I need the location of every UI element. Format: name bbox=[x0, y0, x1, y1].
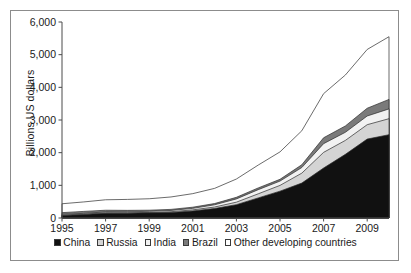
y-axis-ticks: 6,0005,0004,0003,0002,0001,0000 bbox=[30, 16, 62, 224]
y-tick-label: 5,000 bbox=[30, 48, 56, 60]
legend-label: Russia bbox=[106, 237, 137, 248]
x-axis-ticks: 19951997199920012003200520072009 bbox=[50, 218, 379, 234]
x-tick-label: 1995 bbox=[50, 222, 74, 234]
stacked-area-chart: 6,0005,0004,0003,0002,0001,0000 19951997… bbox=[0, 0, 411, 273]
x-tick-label: 2003 bbox=[225, 222, 249, 234]
legend-item[interactable]: India bbox=[145, 237, 176, 248]
legend-item[interactable]: Other developing countries bbox=[225, 237, 357, 248]
x-tick-label: 2005 bbox=[268, 222, 292, 234]
y-tick-label: 4,000 bbox=[30, 81, 56, 93]
legend-label: Brazil bbox=[192, 237, 218, 248]
y-tick-label: 1,000 bbox=[30, 179, 56, 191]
x-tick-label: 2001 bbox=[181, 222, 205, 234]
legend-label: India bbox=[154, 237, 176, 248]
legend-swatch-icon bbox=[145, 239, 152, 246]
legend-swatch-icon bbox=[97, 239, 104, 246]
chart-legend: ChinaRussiaIndiaBrazilOther developing c… bbox=[0, 237, 411, 248]
x-tick-label: 2009 bbox=[356, 222, 380, 234]
legend-item[interactable]: Russia bbox=[97, 237, 137, 248]
y-tick-label: 3,000 bbox=[30, 114, 56, 126]
y-tick-label: 2,000 bbox=[30, 146, 56, 158]
legend-item[interactable]: Brazil bbox=[183, 237, 218, 248]
x-tick-label: 2007 bbox=[312, 222, 336, 234]
x-tick-label: 1999 bbox=[138, 222, 162, 234]
legend-swatch-icon bbox=[225, 239, 232, 246]
series-bands bbox=[62, 37, 389, 218]
legend-swatch-icon bbox=[54, 239, 61, 246]
chart-plot-area: 6,0005,0004,0003,0002,0001,0000 19951997… bbox=[0, 0, 411, 273]
legend-item[interactable]: China bbox=[54, 237, 90, 248]
legend-label: Other developing countries bbox=[234, 237, 357, 248]
legend-label: China bbox=[63, 237, 90, 248]
x-tick-label: 1997 bbox=[94, 222, 118, 234]
legend-swatch-icon bbox=[183, 239, 190, 246]
y-tick-label: 6,000 bbox=[30, 16, 56, 28]
